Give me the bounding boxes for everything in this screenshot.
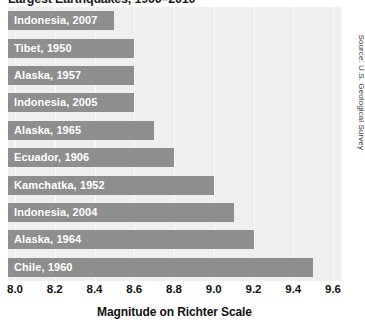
x-tick-label: 9.6 <box>325 283 341 295</box>
x-axis-tick-labels: 8.08.28.48.68.89.09.29.49.6 <box>8 283 341 301</box>
bar-row: Indonesia, 2005 <box>8 93 341 112</box>
bar-label: Alaska, 1957 <box>14 66 81 85</box>
bar-row: Chile, 1960 <box>8 258 341 277</box>
bar-label: Indonesia, 2005 <box>14 93 97 112</box>
x-tick-label: 8.6 <box>126 283 142 295</box>
chart-title: Largest Earthquakes, 1900–2010 <box>8 0 298 7</box>
bar-label: Tibet, 1950 <box>14 39 72 58</box>
x-tick-label: 8.0 <box>7 283 23 295</box>
bar-row: Indonesia, 2004 <box>8 203 341 222</box>
bar-label: Alaska, 1965 <box>14 121 81 140</box>
bar-row: Alaska, 1957 <box>8 66 341 85</box>
bar-series: Indonesia, 2007Tibet, 1950Alaska, 1957In… <box>8 7 341 281</box>
bar-label: Ecuador, 1906 <box>14 148 89 167</box>
source-credit: Source: U.S. Geological Survey <box>356 35 365 151</box>
x-tick-label: 9.2 <box>246 283 262 295</box>
bar-label: Alaska, 1964 <box>14 230 81 249</box>
x-tick-label: 9.4 <box>285 283 301 295</box>
bar-label: Indonesia, 2007 <box>14 11 97 30</box>
x-axis-title: Magnitude on Richter Scale <box>8 305 341 319</box>
x-tick-label: 8.8 <box>166 283 182 295</box>
bar-row: Kamchatka, 1952 <box>8 176 341 195</box>
bar-row: Alaska, 1965 <box>8 121 341 140</box>
bar-row: Ecuador, 1906 <box>8 148 341 167</box>
bar-label: Indonesia, 2004 <box>14 203 97 222</box>
bar-label: Chile, 1960 <box>14 258 73 277</box>
x-tick-label: 8.4 <box>87 283 103 295</box>
x-tick-label: 8.2 <box>47 283 63 295</box>
bar-row: Alaska, 1964 <box>8 230 341 249</box>
bar-row: Indonesia, 2007 <box>8 11 341 30</box>
bar-row: Tibet, 1950 <box>8 39 341 58</box>
x-tick-label: 9.0 <box>206 283 222 295</box>
bar-label: Kamchatka, 1952 <box>14 176 105 195</box>
plot-area: Indonesia, 2007Tibet, 1950Alaska, 1957In… <box>8 7 341 281</box>
